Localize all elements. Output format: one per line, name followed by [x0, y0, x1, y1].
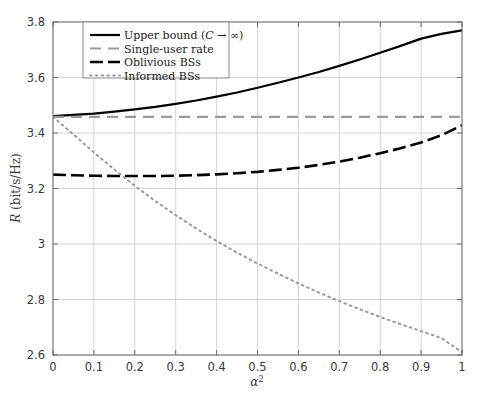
- y-tick-label: 3: [38, 237, 45, 251]
- x-tick-label: 0.8: [371, 360, 389, 374]
- y-tick-label: 3.8: [27, 15, 45, 29]
- line-chart: 00.10.20.30.40.50.60.70.80.91 2.62.833.2…: [0, 0, 481, 403]
- x-tick-label: 0.6: [289, 360, 307, 374]
- x-tick-labels: 00.10.20.30.40.50.60.70.80.91: [49, 360, 465, 374]
- x-tick-label: 0: [49, 360, 56, 374]
- x-tick-label: 0.2: [126, 360, 144, 374]
- x-axis-title: α2: [250, 374, 264, 389]
- x-tick-label: 0.4: [207, 360, 225, 374]
- y-axis-title: R (bit/s/Hz): [9, 153, 23, 224]
- legend-label-0: Upper bound (C → ∞): [124, 29, 243, 42]
- legend-label-2: Oblivious BSs: [124, 56, 201, 69]
- legend-label-3: Informed BSs: [124, 70, 200, 83]
- x-tick-label: 0.3: [167, 360, 185, 374]
- y-tick-label: 3.2: [27, 182, 45, 196]
- x-tick-label: 1: [458, 360, 465, 374]
- x-tick-label: 0.1: [85, 360, 103, 374]
- x-tick-label: 0.5: [248, 360, 266, 374]
- chart-figure: 00.10.20.30.40.50.60.70.80.91 2.62.833.2…: [0, 0, 481, 403]
- y-tick-label: 2.8: [27, 293, 45, 307]
- legend: Upper bound (C → ∞)Single-user rateObliv…: [83, 22, 243, 83]
- y-tick-label: 3.6: [27, 71, 45, 85]
- x-tick-label: 0.7: [330, 360, 348, 374]
- y-tick-label: 2.6: [27, 348, 45, 362]
- x-tick-label: 0.9: [412, 360, 430, 374]
- y-tick-labels: 2.62.833.23.43.63.8: [27, 15, 45, 362]
- legend-label-1: Single-user rate: [124, 43, 214, 56]
- y-tick-label: 3.4: [27, 126, 45, 140]
